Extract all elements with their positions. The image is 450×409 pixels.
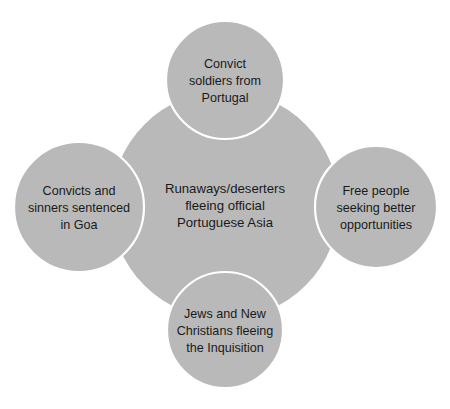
right-bubble-label-line-1: Free people [342, 184, 409, 198]
center-bubble-label-line-3: Portuguese Asia [177, 215, 274, 230]
top-bubble-label-line-3: Portugal [202, 91, 249, 105]
bottom-bubble-label-line-3: the Inquisition [186, 341, 264, 355]
left-bubble-label-line-2: sinners sentenced [28, 201, 130, 215]
right-bubble-label-line-2: seeking better [336, 201, 415, 215]
center-bubble-label-line-1: Runaways/deserters [165, 181, 286, 196]
left-bubble-label-line-3: in Goa [60, 218, 97, 232]
top-bubble-label-line-2: soldiers from [189, 74, 261, 88]
bottom-bubble-label-line-2: Christians fleeing [177, 324, 274, 338]
diagram-canvas: Runaways/deserters fleeing official Port… [0, 0, 450, 409]
right-bubble-label: Free people seeking better opportunities [336, 184, 415, 232]
center-bubble-label-line-2: fleeing official [185, 198, 265, 213]
top-bubble-label-line-1: Convict [204, 57, 246, 71]
bottom-bubble-label-line-1: Jews and New [184, 307, 267, 321]
bottom-bubble-label: Jews and New Christians fleeing the Inqu… [177, 307, 274, 355]
right-bubble-label-line-3: opportunities [340, 218, 412, 232]
left-bubble-label-line-1: Convicts and [43, 184, 116, 198]
bubble-diagram: Runaways/deserters fleeing official Port… [0, 0, 450, 409]
